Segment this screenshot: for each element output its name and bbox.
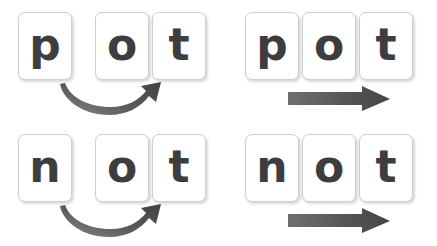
word-group-bottom-right: n o t bbox=[0, 0, 437, 246]
tile-letter: o bbox=[314, 145, 344, 189]
letter-tile[interactable]: t bbox=[359, 134, 413, 202]
letter-tile[interactable]: n bbox=[245, 134, 299, 202]
illustration-canvas: p o t p o bbox=[0, 0, 437, 246]
straight-arrow-shape bbox=[288, 208, 390, 233]
tile-letter: n bbox=[256, 145, 287, 189]
tile-letter: t bbox=[375, 145, 396, 189]
straight-arrow bbox=[288, 208, 392, 234]
letter-tile[interactable]: o bbox=[302, 134, 356, 202]
